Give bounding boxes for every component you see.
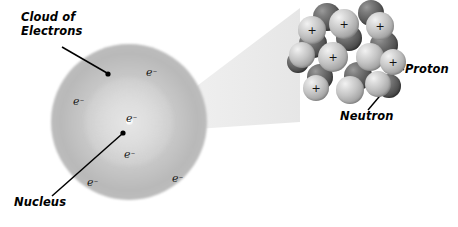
electron-charge-symbol: – — [153, 66, 157, 75]
electron-label: e– — [126, 112, 137, 125]
electron-label: e– — [172, 172, 183, 185]
electron-symbol: e — [124, 148, 131, 161]
cloud-of-electrons-label: Cloud of Electrons — [21, 11, 82, 38]
proton-sphere — [336, 76, 364, 104]
electron-charge-symbol: – — [80, 95, 84, 104]
proton-charge-symbol: + — [307, 25, 316, 36]
proton-label: Proton — [405, 63, 449, 77]
nucleus-label: Nucleus — [14, 196, 66, 210]
atom-structure-figure: + + + + + + Cloud of Electrons Nucleus P… — [0, 0, 458, 227]
electron-symbol: e — [146, 66, 153, 79]
electron-charge-symbol: – — [94, 176, 98, 185]
electron-label: e– — [73, 95, 84, 108]
electron-symbol: e — [126, 112, 133, 125]
proton-charge-symbol: + — [375, 21, 384, 32]
electron-symbol: e — [73, 95, 80, 108]
electron-label: e– — [87, 176, 98, 189]
proton-sphere — [365, 71, 391, 97]
proton-charge-symbol: + — [328, 52, 337, 63]
proton-charge-symbol: + — [311, 83, 320, 94]
electron-charge-symbol: – — [133, 112, 137, 121]
electron-symbol: e — [172, 172, 179, 185]
neutron-label: Neutron — [340, 110, 394, 124]
electron-symbol: e — [87, 176, 94, 189]
proton-charge-symbol: + — [339, 19, 348, 30]
electron-label: e– — [146, 66, 157, 79]
proton-sphere — [289, 42, 315, 68]
electron-charge-symbol: – — [179, 172, 183, 181]
electron-label: e– — [124, 148, 135, 161]
proton-charge-symbol: + — [388, 57, 397, 68]
electron-charge-symbol: – — [131, 148, 135, 157]
